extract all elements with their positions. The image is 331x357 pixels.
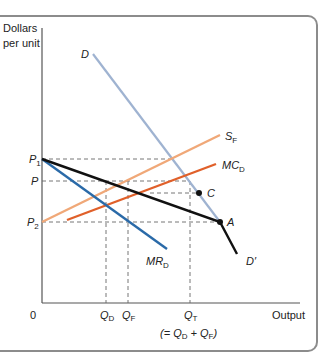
y-axis-label-line2: per unit (3, 37, 40, 49)
p2-label: P2 (27, 216, 39, 231)
guide-lines (42, 159, 220, 303)
x-axis-label: Output (272, 309, 305, 321)
mrd-curve-label: MRD (146, 255, 169, 270)
point-a-label: A (226, 216, 234, 228)
d-curve-label: D (81, 48, 89, 60)
d-prime-curve-label: D′ (246, 255, 257, 267)
origin-label: 0 (30, 309, 36, 321)
sf-curve-label: SF (225, 130, 237, 145)
qd-label: QD (100, 309, 115, 323)
demand-curve-d (93, 54, 220, 222)
point-c (196, 190, 202, 196)
dominant-firm-diagram: Dollars per unit Output 0 P1 P P2 QD QF … (0, 0, 331, 357)
y-axis-label-line1: Dollars (3, 22, 38, 34)
marginal-revenue-curve-mrd (42, 159, 167, 249)
point-c-label: C (207, 187, 215, 199)
qt-label: QT (184, 309, 198, 323)
qf-label: QF (122, 309, 136, 323)
p1-label: P1 (29, 153, 41, 168)
qt-note: (= QD + QF) (160, 327, 218, 341)
p-label: P (31, 175, 39, 187)
mcd-curve-label: MCD (222, 159, 245, 174)
point-a (217, 219, 223, 225)
